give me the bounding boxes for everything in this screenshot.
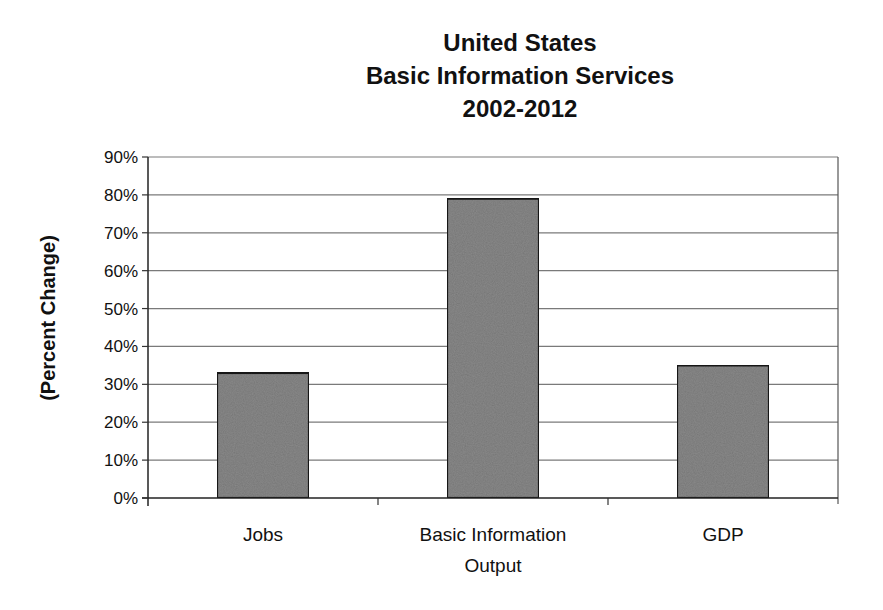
x-category-label: Output	[464, 555, 522, 576]
bar-jobs	[217, 373, 309, 498]
x-axis-labels: JobsBasic InformationOutputGDP	[243, 524, 744, 576]
y-tick-label: 20%	[104, 413, 138, 432]
x-category-label: Basic Information	[420, 524, 567, 545]
y-tick-label: 30%	[104, 375, 138, 394]
y-tick-label: 60%	[104, 262, 138, 281]
y-tick-label: 90%	[104, 148, 138, 167]
y-tick-label: 0%	[113, 489, 138, 508]
x-category-label: Jobs	[243, 524, 283, 545]
bar-basic-information-output	[447, 199, 539, 498]
y-axis-ticks: 0%10%20%30%40%50%60%70%80%90%	[104, 148, 148, 508]
bar-chart: 0%10%20%30%40%50%60%70%80%90% JobsBasic …	[0, 0, 883, 610]
y-tick-label: 40%	[104, 337, 138, 356]
x-category-label: GDP	[702, 524, 743, 545]
y-tick-label: 50%	[104, 300, 138, 319]
y-tick-label: 10%	[104, 451, 138, 470]
y-tick-label: 80%	[104, 186, 138, 205]
bar-gdp	[677, 365, 769, 498]
y-tick-label: 70%	[104, 224, 138, 243]
bars	[217, 199, 769, 498]
